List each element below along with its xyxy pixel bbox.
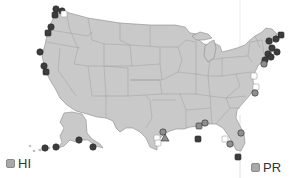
inset-label-pr: PR bbox=[251, 160, 281, 175]
michigan-upper-peninsula bbox=[192, 32, 212, 40]
station-marker-circle-icon bbox=[273, 36, 279, 42]
station-marker-square-icon bbox=[196, 123, 202, 129]
station-marker-square-icon bbox=[253, 84, 259, 90]
station-marker-circle-icon bbox=[90, 144, 96, 150]
station-marker-circle-icon bbox=[53, 144, 59, 150]
inset-label-hi: HI bbox=[6, 156, 31, 171]
station-marker-circle-icon bbox=[48, 24, 54, 30]
station-marker-square-icon bbox=[61, 11, 67, 17]
pr-swatch-icon bbox=[251, 163, 260, 172]
station-marker-circle-icon bbox=[274, 49, 280, 55]
hi-swatch-icon bbox=[6, 159, 15, 168]
station-marker-square-icon bbox=[235, 154, 241, 160]
station-marker-circle-icon bbox=[37, 49, 43, 55]
pr-label: PR bbox=[263, 160, 281, 175]
station-marker-circle-icon bbox=[252, 90, 258, 96]
station-marker-circle-icon bbox=[261, 61, 267, 67]
hi-label: HI bbox=[18, 156, 31, 171]
station-marker-circle-icon bbox=[53, 6, 59, 12]
station-marker-circle-icon bbox=[42, 145, 48, 151]
station-marker-circle-icon bbox=[238, 130, 244, 136]
station-marker-square-icon bbox=[222, 136, 228, 142]
station-marker-square-icon bbox=[52, 12, 58, 18]
station-marker-circle-icon bbox=[266, 38, 272, 44]
station-marker-circle-icon bbox=[268, 54, 274, 60]
station-marker-square-icon bbox=[251, 73, 257, 79]
station-marker-circle-icon bbox=[202, 120, 208, 126]
station-marker-square-icon bbox=[45, 30, 51, 36]
station-marker-circle-icon bbox=[227, 141, 233, 147]
station-marker-square-icon bbox=[43, 69, 49, 75]
us-map bbox=[0, 0, 295, 178]
station-marker-square-icon bbox=[195, 136, 201, 142]
station-marker-circle-icon bbox=[41, 63, 47, 69]
station-marker-circle-icon bbox=[76, 137, 82, 143]
station-marker-square-icon bbox=[155, 140, 161, 146]
